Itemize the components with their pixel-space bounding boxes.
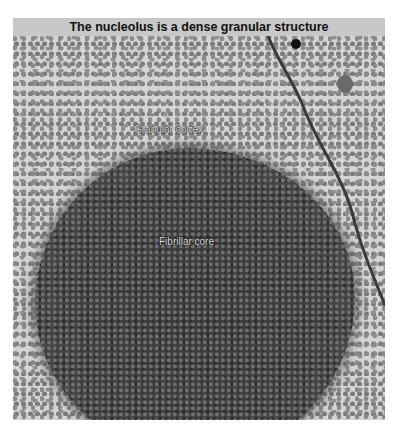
micrograph-figure: The nucleolus is a dense granular struct… xyxy=(13,18,385,420)
title-bar: The nucleolus is a dense granular struct… xyxy=(13,18,385,36)
granular-cortex-label: Granular cortex xyxy=(134,124,203,135)
fibrillar-core-label: Fibrillar core xyxy=(159,236,214,247)
figure-title: The nucleolus is a dense granular struct… xyxy=(69,20,328,34)
electron-micrograph xyxy=(13,36,385,420)
